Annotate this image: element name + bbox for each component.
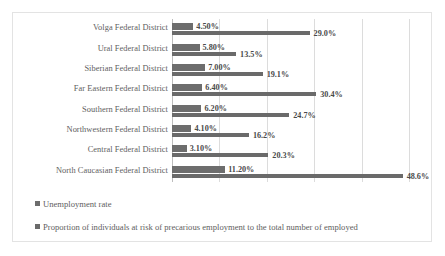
bar-value-label: 3.10% xyxy=(190,144,213,153)
gridline xyxy=(362,19,363,182)
bar-value-label: 5.80% xyxy=(203,43,226,52)
bar-value-label: 20.3% xyxy=(272,151,295,160)
legend-label: Proportion of individuals at risk of pre… xyxy=(43,222,358,232)
category-label: North Caucasian Federal District xyxy=(13,166,168,176)
bar-value-label: 16.2% xyxy=(253,131,276,140)
bar-precarious-employment xyxy=(172,174,403,178)
bar-unemployment-rate xyxy=(172,166,225,173)
legend-swatch-icon xyxy=(35,224,40,229)
bar-unemployment-rate xyxy=(172,84,202,91)
bar-value-label: 11.20% xyxy=(228,165,254,174)
bar-unemployment-rate xyxy=(172,44,200,51)
bar-value-label: 30.4% xyxy=(320,90,343,99)
bar-unemployment-rate xyxy=(172,105,201,112)
bar-value-label: 48.6% xyxy=(407,172,430,181)
bar-value-label: 13.5% xyxy=(240,50,263,59)
bar-precarious-employment xyxy=(172,153,268,157)
bar-unemployment-rate xyxy=(172,125,191,132)
chart-legend: Unemployment rateProportion of individua… xyxy=(13,189,433,241)
gridline xyxy=(267,19,268,182)
gridline xyxy=(409,19,410,182)
bar-precarious-employment xyxy=(172,92,316,96)
bar-value-label: 6.40% xyxy=(205,83,228,92)
legend-item[interactable]: Proportion of individuals at risk of pre… xyxy=(35,222,358,233)
category-label: Volga Federal District xyxy=(13,23,168,33)
bar-value-label: 24.7% xyxy=(293,111,316,120)
category-label: Northwestern Federal District xyxy=(13,125,168,135)
bar-value-label: 4.50% xyxy=(196,22,219,31)
category-label: Far Eastern Federal District xyxy=(13,84,168,94)
bar-unemployment-rate xyxy=(172,64,205,71)
bar-precarious-employment xyxy=(172,31,310,35)
category-label: Ural Federal District xyxy=(13,44,168,54)
bar-value-label: 7.00% xyxy=(208,63,231,72)
bar-value-label: 6.20% xyxy=(204,104,227,113)
bar-precarious-employment xyxy=(172,52,236,56)
bar-value-label: 19.1% xyxy=(267,70,290,79)
bar-precarious-employment xyxy=(172,113,289,117)
legend-item[interactable]: Unemployment rate xyxy=(35,199,112,210)
category-axis: Volga Federal DistrictUral Federal Distr… xyxy=(13,13,172,185)
legend-label: Unemployment rate xyxy=(43,199,112,209)
category-label: Siberian Federal District xyxy=(13,64,168,74)
bar-unemployment-rate xyxy=(172,23,193,30)
bar-precarious-employment xyxy=(172,72,263,76)
bar-unemployment-rate xyxy=(172,145,187,152)
legend-swatch-icon xyxy=(35,201,40,206)
bar-value-label: 4.10% xyxy=(194,124,217,133)
bars-region: 4.50%29.0%5.80%13.5%7.00%19.1%6.40%30.4%… xyxy=(172,19,433,182)
plot-area: Volga Federal DistrictUral Federal Distr… xyxy=(13,13,433,185)
category-label: Southern Federal District xyxy=(13,105,168,115)
category-label: Central Federal District xyxy=(13,145,168,155)
bar-value-label: 29.0% xyxy=(314,29,337,38)
chart-container: Volga Federal DistrictUral Federal Distr… xyxy=(12,12,432,242)
bar-precarious-employment xyxy=(172,133,249,137)
gridline xyxy=(314,19,315,182)
